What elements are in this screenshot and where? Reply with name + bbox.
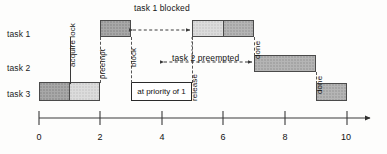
bar-segment-task3-light	[70, 83, 99, 100]
label-done-task1: done	[253, 41, 262, 59]
axis-tick-0: 0	[31, 132, 47, 142]
bar-task1-run-1	[100, 20, 131, 37]
axis-tick-2: 2	[92, 132, 108, 142]
annotation-task2-preempted: task 2 preempted	[172, 53, 239, 63]
bar-task2-run-1	[254, 55, 316, 72]
label-release: release	[190, 74, 199, 101]
bar-segment-task1-run2a	[193, 21, 224, 36]
bar-segment-task1-run1	[101, 21, 130, 36]
annotation-task1-blocked: task 1 blocked	[134, 3, 190, 13]
bar-task3-run-1	[39, 82, 100, 101]
axis-tick-10: 10	[338, 132, 354, 142]
note-at-priority-of-1: at priority of 1	[131, 82, 192, 101]
row-label-task-3: task 3	[7, 89, 30, 99]
axis-tick-8: 8	[277, 132, 293, 142]
label-block: block	[129, 48, 138, 67]
bar-segment-task2-run1	[255, 56, 315, 71]
label-acquire-lock: acquire lock	[68, 23, 77, 67]
label-preempt: preempt	[98, 49, 107, 79]
bar-segment-task3-locked	[40, 83, 70, 100]
row-label-task-2: task 2	[7, 63, 30, 73]
axis-tick-4: 4	[154, 132, 170, 142]
row-label-task-1: task 1	[7, 29, 30, 39]
label-done-task2: done	[315, 76, 324, 94]
axis-tick-6: 6	[215, 132, 231, 142]
bar-segment-task1-run2b	[224, 21, 254, 36]
axis-ticks	[39, 111, 347, 125]
timing-diagram: task 1 task 2 task 3 at priority of 1 ac…	[0, 0, 387, 154]
bar-task1-run-2	[192, 20, 254, 37]
